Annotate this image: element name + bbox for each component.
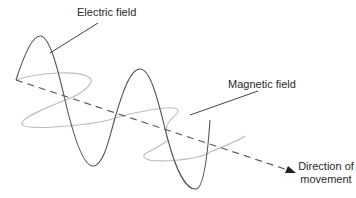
magnetic-field-wave: [16, 73, 245, 161]
magnetic-field-leader: [190, 91, 258, 115]
propagation-axis: [16, 80, 288, 170]
direction-label-line2: movement: [296, 173, 356, 186]
magnetic-field-label: Magnetic field: [228, 78, 296, 91]
electric-field-leader: [50, 23, 98, 53]
arrowhead-icon: [285, 166, 296, 173]
electric-field-label: Electric field: [77, 6, 136, 19]
direction-label-line1: Direction of: [296, 160, 356, 173]
direction-of-movement-label: Direction of movement: [296, 160, 356, 186]
